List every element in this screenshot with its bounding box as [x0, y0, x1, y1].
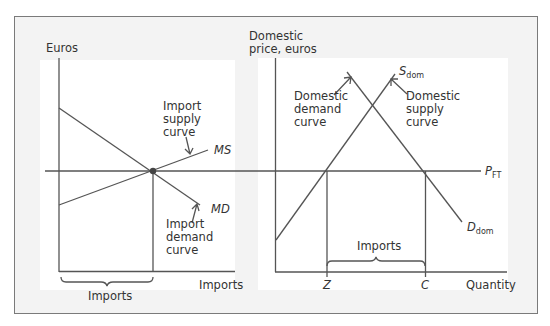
left-bracket-label: Imports: [88, 290, 132, 303]
ms-label: MS: [214, 144, 231, 157]
ms-curve: [59, 150, 208, 205]
ms-annotation-arrow: [185, 137, 193, 154]
s-dom-label: Sdom: [399, 65, 424, 82]
domestic-supply-annotation: Domestic supply curve: [406, 90, 460, 129]
right-bracket-label: Imports: [357, 240, 401, 253]
import-demand-annotation: Import demand curve: [166, 218, 213, 257]
import-supply-annotation: Import supply curve: [163, 100, 201, 139]
right-x-axis-label: Quantity: [466, 279, 516, 292]
left-y-axis-label: Euros: [46, 42, 78, 55]
md-label: MD: [211, 203, 230, 216]
c-tick-label: C: [421, 279, 429, 292]
left-x-axis-label: Imports: [199, 279, 243, 292]
right-imports-bracket: [327, 257, 425, 266]
domestic-demand-annotation: Domestic demand curve: [294, 90, 348, 129]
d-dom-label: Ddom: [467, 221, 494, 238]
z-tick-label: Z: [323, 279, 331, 292]
p-ft-label: PFT: [485, 165, 501, 182]
left-imports-bracket: [61, 277, 153, 286]
equilibrium-point: [150, 168, 156, 174]
right-y-axis-label: Domestic price, euros: [249, 30, 317, 56]
